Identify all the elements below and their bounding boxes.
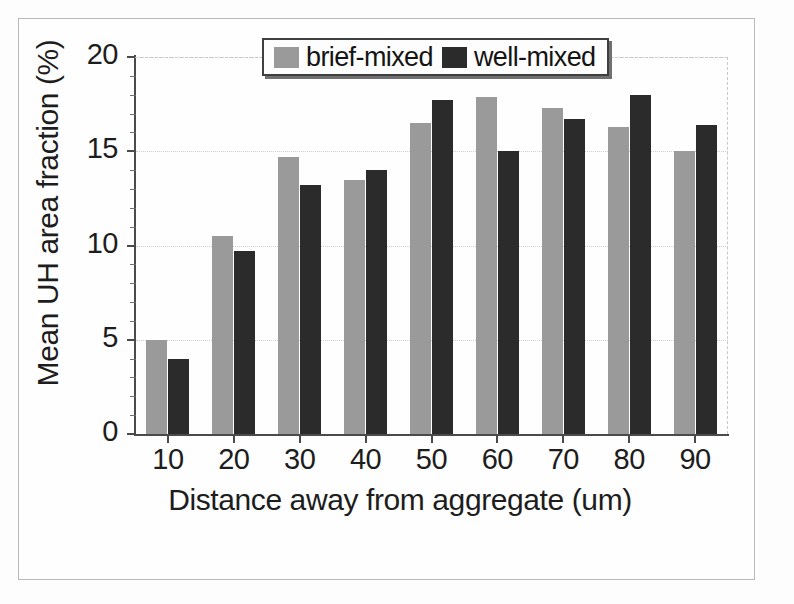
legend-swatch-icon [274, 47, 299, 68]
figure-root: Mean UH area fraction (%) 05101520 10203… [0, 0, 794, 604]
x-tick-label: 80 [594, 443, 664, 476]
x-tick-label: 70 [528, 443, 598, 476]
legend-entry-brief-mixed: brief-mixed [274, 42, 433, 73]
bar-well-mixed-70 [564, 119, 585, 434]
bar-well-mixed-10 [168, 359, 189, 434]
x-tick-mark [167, 436, 169, 443]
x-tick-label: 20 [199, 443, 269, 476]
bar-well-mixed-50 [432, 100, 453, 434]
x-tick-label: 90 [660, 443, 730, 476]
x-tick-mark [694, 436, 696, 443]
x-tick-label: 10 [133, 443, 203, 476]
bar-brief-mixed-20 [212, 236, 233, 434]
bar-well-mixed-80 [630, 95, 651, 434]
bar-brief-mixed-80 [608, 127, 629, 434]
y-tick-label: 20 [62, 38, 118, 71]
bar-brief-mixed-60 [476, 97, 497, 434]
x-tick-mark [365, 436, 367, 443]
bar-brief-mixed-50 [410, 123, 431, 434]
x-axis-title: Distance away from aggregate (um) [60, 483, 740, 517]
bar-brief-mixed-10 [146, 340, 167, 434]
bar-brief-mixed-90 [674, 151, 695, 434]
bar-well-mixed-20 [234, 251, 255, 434]
legend-entry-well-mixed: well-mixed [442, 42, 596, 73]
bar-well-mixed-90 [696, 125, 717, 434]
bar-well-mixed-30 [300, 185, 321, 434]
x-tick-mark [233, 436, 235, 443]
x-tick-label: 50 [397, 443, 467, 476]
x-tick-mark [562, 436, 564, 443]
bar-well-mixed-60 [498, 151, 519, 434]
bar-well-mixed-40 [366, 170, 387, 434]
x-tick-label: 30 [265, 443, 335, 476]
x-tick-label: 40 [331, 443, 401, 476]
bar-brief-mixed-70 [542, 108, 563, 434]
legend: brief-mixedwell-mixed [262, 38, 609, 76]
plot-area [135, 57, 728, 434]
legend-label: well-mixed [474, 42, 596, 73]
y-tick-label: 10 [62, 227, 118, 260]
y-axis-title: Mean UH area fraction (%) [31, 3, 65, 423]
legend-label: brief-mixed [306, 42, 433, 73]
x-tick-mark [496, 436, 498, 443]
legend-swatch-icon [442, 47, 467, 68]
y-tick-label: 0 [62, 415, 118, 448]
bar-brief-mixed-40 [344, 180, 365, 434]
x-tick-mark [431, 436, 433, 443]
y-tick-label: 5 [62, 321, 118, 354]
x-tick-mark [628, 436, 630, 443]
y-tick-label: 15 [62, 132, 118, 165]
bar-brief-mixed-30 [278, 157, 299, 434]
x-tick-label: 60 [462, 443, 532, 476]
x-tick-mark [299, 436, 301, 443]
